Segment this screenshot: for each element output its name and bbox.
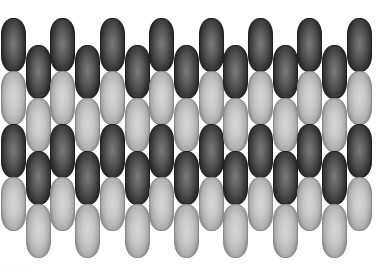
light-oval: [199, 71, 224, 125]
dark-oval: [248, 18, 273, 72]
dark-oval: [199, 18, 224, 72]
light-oval: [297, 71, 322, 125]
dark-oval: [26, 151, 51, 205]
dark-oval: [1, 124, 26, 178]
light-oval: [26, 98, 51, 152]
oval-column-10: [223, 45, 248, 257]
dark-oval: [174, 151, 199, 205]
light-oval: [100, 177, 125, 231]
dark-oval: [322, 151, 347, 205]
dark-oval: [75, 151, 100, 205]
oval-column-14: [322, 45, 347, 257]
light-oval: [100, 71, 125, 125]
light-oval: [248, 71, 273, 125]
dark-oval: [125, 45, 150, 99]
dark-oval: [149, 18, 174, 72]
dark-oval: [199, 124, 224, 178]
dark-oval: [273, 45, 298, 99]
dark-oval: [174, 45, 199, 99]
oval-column-5: [100, 18, 125, 230]
dark-oval: [347, 18, 372, 72]
oval-column-4: [75, 45, 100, 257]
oval-column-2: [26, 45, 51, 257]
dark-oval: [347, 124, 372, 178]
dark-oval: [149, 124, 174, 178]
oval-column-13: [297, 18, 322, 230]
light-oval: [1, 177, 26, 231]
dark-oval: [75, 45, 100, 99]
oval-column-6: [125, 45, 150, 257]
dark-oval: [297, 18, 322, 72]
dark-oval: [223, 151, 248, 205]
dark-oval: [125, 151, 150, 205]
light-oval: [75, 204, 100, 258]
oval-column-9: [199, 18, 224, 230]
light-oval: [297, 177, 322, 231]
light-oval: [223, 98, 248, 152]
light-oval: [248, 177, 273, 231]
illusion-figure: [0, 0, 379, 278]
light-oval: [273, 204, 298, 258]
light-oval: [125, 98, 150, 152]
watermark: · · · · ·: [3, 266, 29, 273]
light-oval: [149, 71, 174, 125]
dark-oval: [100, 18, 125, 72]
dark-oval: [50, 18, 75, 72]
dark-oval: [100, 124, 125, 178]
dark-oval: [273, 151, 298, 205]
oval-column-12: [273, 45, 298, 257]
light-oval: [149, 177, 174, 231]
light-oval: [75, 98, 100, 152]
oval-column-7: [149, 18, 174, 230]
light-oval: [1, 71, 26, 125]
dark-oval: [26, 45, 51, 99]
dark-oval: [322, 45, 347, 99]
light-oval: [50, 71, 75, 125]
dark-oval: [50, 124, 75, 178]
light-oval: [322, 98, 347, 152]
dark-oval: [223, 45, 248, 99]
light-oval: [125, 204, 150, 258]
oval-column-15: [347, 18, 372, 230]
light-oval: [26, 204, 51, 258]
light-oval: [322, 204, 347, 258]
light-oval: [347, 177, 372, 231]
oval-column-11: [248, 18, 273, 230]
dark-oval: [1, 18, 26, 72]
dark-oval: [297, 124, 322, 178]
light-oval: [223, 204, 248, 258]
light-oval: [174, 98, 199, 152]
light-oval: [347, 71, 372, 125]
light-oval: [273, 98, 298, 152]
light-oval: [50, 177, 75, 231]
light-oval: [199, 177, 224, 231]
oval-column-8: [174, 45, 199, 257]
light-oval: [174, 204, 199, 258]
dark-oval: [248, 124, 273, 178]
oval-column-1: [1, 18, 26, 230]
oval-column-3: [50, 18, 75, 230]
